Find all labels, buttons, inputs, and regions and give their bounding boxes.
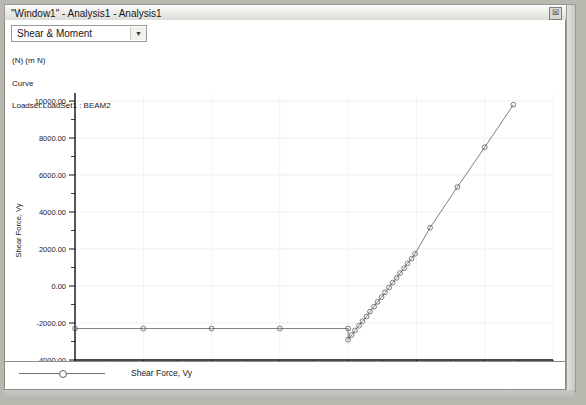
window-client-area: Shear & Moment ▼ (N) (m N) Curve Loadset… [4,20,566,390]
legend-marker-icon [59,370,67,378]
window-title: "Window1" - Analysis1 - Analysis1 [5,8,162,19]
y-tick-label: 2000.00 [39,245,66,254]
legend-entry-label: Shear Force, Vy [131,368,192,378]
y-axis-label: Shear Force, Vy [14,203,23,257]
chart-axes [75,93,553,360]
window-bottom-edge [4,390,574,400]
chart-legend: Shear Force, Vy [5,361,565,389]
y-tick-label: 6000.00 [39,171,66,180]
y-tick-label: 10000.00 [35,97,66,106]
close-icon[interactable]: ☒ [549,7,562,20]
analysis-window: "Window1" - Analysis1 - Analysis1 ☒ Shea… [0,0,586,405]
chart-area: -4000.00-2000.000.002000.004000.006000.0… [5,20,565,389]
series-line [75,105,513,340]
shear-force-chart: -4000.00-2000.000.002000.004000.006000.0… [5,20,565,361]
y-tick-label: 0.00 [51,282,66,291]
y-tick-label: 4000.00 [39,208,66,217]
window-right-edge [566,4,576,392]
y-tick-label: -2000.00 [36,319,66,328]
y-tick-label: 8000.00 [39,134,66,143]
legend-entry: Shear Force, Vy [19,368,192,378]
legend-swatch [19,369,105,378]
